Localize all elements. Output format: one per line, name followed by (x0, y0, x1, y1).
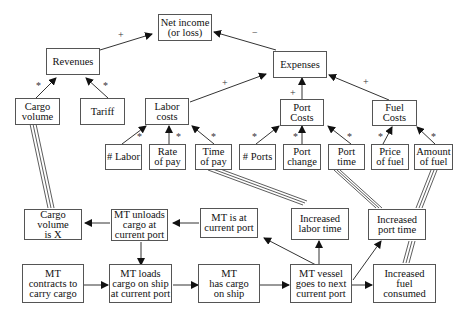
sign-star: * (293, 131, 298, 142)
node-num-ports: # Ports (239, 144, 276, 170)
node-tariff: Tariff (80, 98, 125, 125)
sign-star: * (252, 131, 257, 142)
node-price-of-fuel: Price of fuel (371, 144, 409, 170)
causal-diagram: + − + + + * * * * * * * * * * Net income… (0, 0, 464, 318)
sign-revenues-plus: + (118, 29, 124, 40)
node-port-change: Port change (283, 144, 321, 170)
node-time-of-pay: Time of pay (195, 144, 232, 170)
node-amount-of-fuel: Amount of fuel (414, 144, 453, 170)
node-revenues: Revenues (46, 48, 100, 75)
node-mt-contracts: MT contracts to carry cargo (22, 264, 84, 303)
sign-star: * (176, 131, 181, 142)
node-rate-of-pay: Rate of pay (149, 144, 186, 170)
sign-star: * (211, 131, 216, 142)
node-num-labor: # Labor (105, 144, 142, 170)
sign-expenses-minus: − (252, 27, 258, 38)
node-port-time: Port time (328, 144, 365, 170)
node-cargo-volume-x: Cargo volume is X (24, 209, 82, 240)
node-mt-loads: MT loads cargo on ship at current port (109, 264, 172, 303)
node-mt-unloads: MT unloads cargo at current port (111, 209, 168, 241)
node-port-costs: Port Costs (280, 99, 324, 126)
node-mt-has-cargo: MT has cargo on ship (198, 264, 260, 303)
node-labor-costs: Labor costs (145, 98, 189, 125)
node-mt-at-port: MT is at current port (200, 208, 258, 238)
node-increased-fuel: Increased fuel consumed (373, 264, 436, 303)
sign-port-plus: + (290, 87, 296, 98)
sign-star: * (347, 131, 352, 142)
sign-star: * (36, 80, 41, 91)
sign-labor-plus: + (222, 77, 228, 88)
node-cargo-volume: Cargo volume (15, 98, 60, 125)
sign-star: * (103, 80, 108, 91)
sign-star: * (137, 131, 142, 142)
sign-star: * (431, 131, 436, 142)
sign-star: * (378, 131, 383, 142)
node-net-income: Net income (or loss) (158, 14, 212, 41)
node-fuel-costs: Fuel Costs (372, 100, 417, 126)
node-mt-vessel-goes: MT vessel goes to next current port (290, 264, 352, 303)
node-expenses: Expenses (273, 51, 327, 78)
node-increased-labor-time: Increased labor time (291, 208, 349, 240)
node-increased-port-time: Increased port time (368, 209, 426, 240)
sign-fuel-plus: + (363, 76, 369, 87)
